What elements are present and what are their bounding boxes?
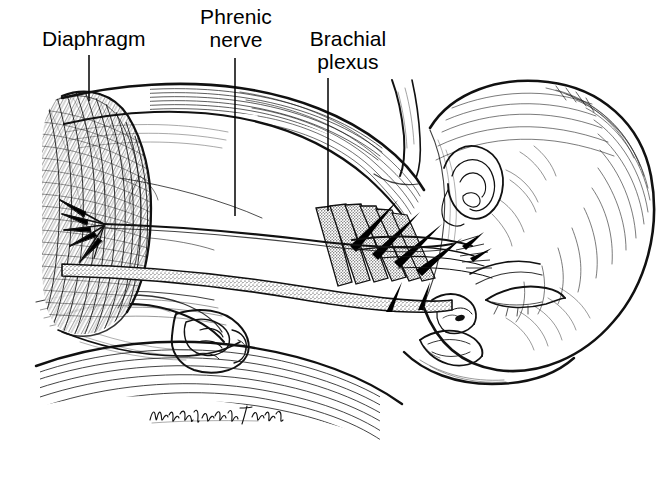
- label-brachial-plexus-line2: plexus: [317, 50, 378, 73]
- label-phrenic-nerve-line2: nerve: [209, 28, 262, 51]
- illustration-canvas: Diaphragm Phrenicnerve Brachialplexus: [0, 0, 671, 478]
- diaphragm: [40, 91, 151, 336]
- infant-head: [404, 81, 654, 384]
- label-brachial-plexus-line1: Brachial: [310, 27, 387, 50]
- label-brachial-plexus: Brachialplexus: [298, 27, 398, 73]
- artist-signature: [148, 402, 286, 428]
- label-phrenic-nerve: Phrenicnerve: [186, 5, 286, 51]
- label-diaphragm: Diaphragm: [42, 27, 146, 50]
- ear: [442, 146, 503, 226]
- label-phrenic-nerve-line1: Phrenic: [200, 5, 272, 28]
